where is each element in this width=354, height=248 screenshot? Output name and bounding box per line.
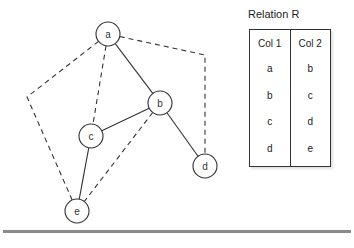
edge-b-c: [102, 108, 149, 131]
node-label: d: [202, 161, 208, 172]
edge-b-d: [167, 113, 198, 156]
edge-a-e: [27, 41, 99, 200]
node-label: a: [105, 29, 111, 40]
column-header: Col 2: [299, 38, 322, 56]
edge-a-c: [93, 46, 106, 124]
relation-title: Relation R: [248, 8, 299, 20]
table-cell: b: [307, 56, 313, 83]
edge-c-e: [79, 148, 89, 199]
table-cell: d: [307, 109, 313, 136]
node-b: b: [148, 91, 172, 115]
table-cell: e: [307, 136, 313, 163]
node-a: a: [96, 22, 120, 46]
node-c: c: [79, 124, 103, 148]
graph-diagram: abcde: [0, 0, 240, 228]
table-cell: d: [267, 136, 273, 163]
node-d: d: [193, 154, 217, 178]
node-label: b: [157, 98, 163, 109]
table-cell: b: [267, 83, 273, 110]
relation-table: Col 1 a b c d Col 2 b c d e: [249, 29, 331, 167]
table-cell: a: [267, 56, 273, 83]
column-header: Col 1: [258, 38, 281, 56]
table-cell: c: [308, 83, 313, 110]
edge-a-b: [115, 44, 153, 94]
node-e: e: [65, 199, 89, 223]
bottom-divider: [3, 230, 351, 233]
table-cell: c: [267, 109, 272, 136]
node-label: c: [89, 131, 94, 142]
node-label: e: [74, 206, 80, 217]
relation-column-2: Col 2 b c d e: [290, 30, 331, 166]
relation-column-1: Col 1 a b c d: [250, 30, 290, 166]
